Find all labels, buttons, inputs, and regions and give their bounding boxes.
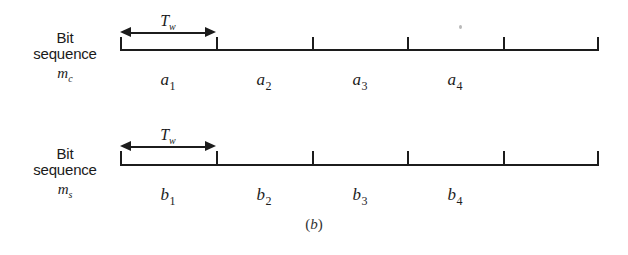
row-label-mc: Bit sequence mc xyxy=(10,30,120,85)
tick-ms-2 xyxy=(312,151,314,165)
tw-label-ms: Tw xyxy=(120,126,216,146)
slot-label-b4: b4 xyxy=(415,185,495,209)
slot-label-a3: a3 xyxy=(320,70,400,94)
tw-annotation-ms: Tw xyxy=(120,128,216,154)
tick-mc-0 xyxy=(120,37,122,50)
tick-mc-4 xyxy=(503,37,505,50)
bit-sequence-timing-figure: Bit sequence mc Tw a1 a2 a3 a4 Bit seque… xyxy=(0,0,628,255)
slot-label-a2: a2 xyxy=(224,70,304,94)
row-label-mc-line1: Bit xyxy=(10,30,120,46)
tick-mc-5 xyxy=(597,37,599,50)
slot-label-a1: a1 xyxy=(128,70,208,94)
row-label-mc-line2: sequence xyxy=(10,46,120,62)
tw-shaft-mc xyxy=(129,32,207,34)
tw-label-mc: Tw xyxy=(120,12,216,32)
axis-baseline-ms xyxy=(120,164,599,166)
tick-ms-4 xyxy=(503,151,505,165)
slot-label-b3: b3 xyxy=(320,185,400,209)
tick-mc-3 xyxy=(407,37,409,50)
tick-ms-0 xyxy=(120,151,122,165)
tick-ms-1 xyxy=(216,151,218,165)
tw-arrowhead-right-icon xyxy=(205,141,216,151)
scan-speck xyxy=(459,25,462,29)
tw-arrowhead-right-icon xyxy=(205,27,216,37)
tick-mc-1 xyxy=(216,37,218,50)
axis-baseline-mc xyxy=(120,49,599,51)
figure-caption: (b) xyxy=(0,216,628,233)
row-symbol-mc: mc xyxy=(10,65,120,85)
row-label-ms-line1: Bit xyxy=(10,146,120,162)
row-symbol-ms: ms xyxy=(10,181,120,201)
slot-label-b1: b1 xyxy=(128,185,208,209)
row-label-ms: Bit sequence ms xyxy=(10,146,120,201)
tw-annotation-mc: Tw xyxy=(120,14,216,40)
slot-label-b2: b2 xyxy=(224,185,304,209)
tick-mc-2 xyxy=(312,37,314,50)
row-label-ms-line2: sequence xyxy=(10,162,120,178)
tw-shaft-ms xyxy=(129,146,207,148)
slot-label-a4: a4 xyxy=(415,70,495,94)
tick-ms-3 xyxy=(407,151,409,165)
tick-ms-5 xyxy=(597,151,599,165)
